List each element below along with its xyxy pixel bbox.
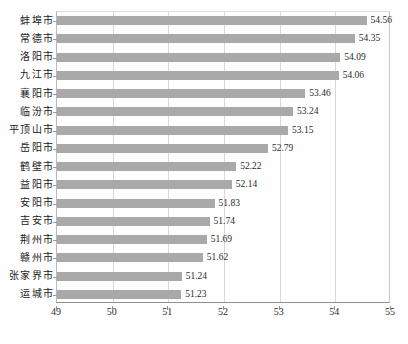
bar-row: 53.15 — [57, 122, 389, 140]
category-label: 益阳市 — [20, 176, 54, 193]
bar[interactable] — [57, 253, 203, 262]
category-label: 九江市 — [20, 66, 54, 83]
category-label: 岳阳市 — [20, 139, 54, 156]
bar-value-label: 51.24 — [186, 268, 207, 285]
bar-row: 54.56 — [57, 12, 389, 30]
bar[interactable] — [57, 107, 293, 116]
bar[interactable] — [57, 162, 236, 171]
x-axis-tick-labels: 49505152535455 — [0, 306, 408, 326]
category-label: 襄阳市 — [20, 85, 54, 102]
bar[interactable] — [57, 16, 367, 25]
category-label: 赣州市 — [20, 249, 54, 266]
bar-value-label: 54.06 — [343, 67, 364, 84]
bar-row: 51.74 — [57, 213, 389, 231]
bar[interactable] — [57, 126, 288, 135]
bar[interactable] — [57, 71, 339, 80]
category-label: 运城市 — [20, 285, 54, 302]
bar-value-label: 53.15 — [292, 122, 313, 139]
bar-value-label: 51.69 — [211, 231, 232, 248]
bar-row: 54.35 — [57, 30, 389, 48]
bar-row: 51.69 — [57, 231, 389, 249]
x-axis-tick — [390, 306, 391, 310]
bar-row: 52.79 — [57, 140, 389, 158]
x-axis-tick — [112, 306, 113, 310]
bar[interactable] — [57, 34, 355, 43]
bar-row: 51.24 — [57, 268, 389, 286]
category-label: 平顶山市 — [9, 121, 54, 138]
bar-row: 51.83 — [57, 195, 389, 213]
x-axis-tick — [279, 306, 280, 310]
bar-row: 51.62 — [57, 249, 389, 267]
category-label: 蚌埠市 — [20, 12, 54, 29]
bar[interactable] — [57, 144, 268, 153]
category-label: 洛阳市 — [20, 48, 54, 65]
bar-value-label: 52.22 — [240, 158, 261, 175]
bar-row: 52.14 — [57, 176, 389, 194]
x-axis-tick — [56, 306, 57, 310]
bar-value-label: 52.79 — [272, 140, 293, 157]
bar[interactable] — [57, 199, 215, 208]
plot-area: 54.5654.3554.0954.0653.4653.2453.1552.79… — [56, 11, 390, 303]
bar-value-label: 54.35 — [359, 30, 380, 47]
bar-row: 53.24 — [57, 103, 389, 121]
category-label: 临汾市 — [20, 103, 54, 120]
bar[interactable] — [57, 290, 181, 299]
bar-value-label: 51.74 — [214, 213, 235, 230]
category-label: 常德市 — [20, 30, 54, 47]
category-label: 吉安市 — [20, 212, 54, 229]
bar-value-label: 53.24 — [297, 103, 318, 120]
bar-value-label: 52.14 — [236, 176, 257, 193]
bar-row: 54.09 — [57, 49, 389, 67]
bar[interactable] — [57, 235, 207, 244]
bar-row: 54.06 — [57, 67, 389, 85]
category-label: 张家界市 — [9, 267, 54, 284]
bar[interactable] — [57, 89, 305, 98]
bar-value-label: 54.09 — [344, 49, 365, 66]
x-axis-tick — [167, 306, 168, 310]
bar-row: 53.46 — [57, 85, 389, 103]
bar-value-label: 51.83 — [219, 195, 240, 212]
bar-value-label: 53.46 — [309, 85, 330, 102]
bar-value-label: 51.23 — [185, 286, 206, 303]
bar-chart: 54.5654.3554.0954.0653.4653.2453.1552.79… — [0, 0, 408, 344]
category-label: 荆州市 — [20, 231, 54, 248]
bar[interactable] — [57, 53, 340, 62]
x-axis-tick — [223, 306, 224, 310]
category-label: 鹤壁市 — [20, 158, 54, 175]
bar[interactable] — [57, 217, 210, 226]
bar-row: 51.23 — [57, 286, 389, 304]
bar-row: 52.22 — [57, 158, 389, 176]
bar[interactable] — [57, 272, 182, 281]
category-label: 安阳市 — [20, 194, 54, 211]
bar-value-label: 54.56 — [371, 12, 392, 29]
x-axis-tick — [334, 306, 335, 310]
bar-rows: 54.5654.3554.0954.0653.4653.2453.1552.79… — [57, 12, 389, 302]
bar[interactable] — [57, 180, 232, 189]
bar-value-label: 51.62 — [207, 249, 228, 266]
